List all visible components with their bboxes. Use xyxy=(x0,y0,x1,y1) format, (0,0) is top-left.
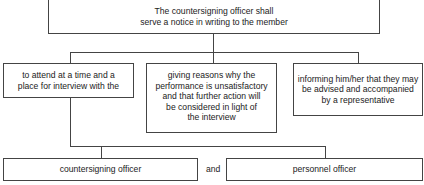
reasons-line-3: and that further action will xyxy=(155,91,267,102)
branch-drop-left xyxy=(70,52,71,63)
root-notice-text: The countersigning officer shall serve a… xyxy=(140,6,288,27)
representative-line-2: be advised and accompanied xyxy=(298,84,418,95)
root-line-2: serve a notice in writing to the member xyxy=(140,17,288,28)
root-notice-box: The countersigning officer shall serve a… xyxy=(48,0,380,34)
attend-drop-line xyxy=(70,97,71,147)
reasons-line-4: be considered in light of xyxy=(155,102,267,113)
countersigning-officer-box: countersigning officer xyxy=(3,158,198,181)
and-conjunction: and xyxy=(206,164,220,174)
reasons-text: giving reasons why the performance is un… xyxy=(155,70,267,123)
interviewer-drop-right xyxy=(325,146,326,158)
personnel-officer-label: personnel officer xyxy=(293,164,356,175)
attend-interview-box: to attend at a time and a place for inte… xyxy=(3,63,134,98)
interviewer-drop-left xyxy=(101,146,102,158)
attend-interview-text: to attend at a time and a place for inte… xyxy=(18,70,119,91)
representative-text: informing him/her that they may be advis… xyxy=(298,74,418,106)
branch-line xyxy=(70,52,359,53)
reasons-box: giving reasons why the performance is un… xyxy=(146,63,277,133)
reasons-line-1: giving reasons why the xyxy=(155,70,267,81)
attend-line-1: to attend at a time and a xyxy=(18,70,119,81)
trunk-line xyxy=(213,33,214,63)
root-line-1: The countersigning officer shall xyxy=(140,6,288,17)
representative-line-3: by a representative xyxy=(298,95,418,106)
attend-line-2: place for interview with the xyxy=(18,81,119,92)
personnel-officer-box: personnel officer xyxy=(226,158,423,181)
representative-line-1: informing him/her that they may xyxy=(298,74,418,85)
representative-box: informing him/her that they may be advis… xyxy=(293,63,423,116)
reasons-line-2: performance is unsatisfactory xyxy=(155,81,267,92)
interviewer-branch-line xyxy=(70,146,326,147)
countersigning-officer-label: countersigning officer xyxy=(60,164,142,175)
branch-drop-right xyxy=(358,52,359,63)
reasons-line-5: the interview xyxy=(155,112,267,123)
